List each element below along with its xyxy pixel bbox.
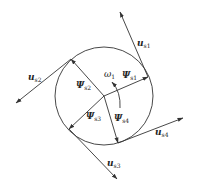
label-u-s1: us1 bbox=[137, 39, 150, 49]
label-psi-s3: Ψs3 bbox=[86, 112, 101, 122]
label-u-s3: us3 bbox=[107, 159, 120, 169]
u-s2-vector bbox=[16, 59, 71, 103]
label-psi-s4: Ψs4 bbox=[114, 114, 129, 124]
label-u-s4: us4 bbox=[155, 128, 168, 138]
omega-rotation-arc-icon bbox=[112, 82, 120, 108]
phasor-diagram bbox=[0, 0, 199, 192]
label-omega: ω1 bbox=[104, 70, 115, 80]
label-u-s2: us2 bbox=[28, 73, 41, 83]
label-psi-s1: Ψs1 bbox=[122, 71, 137, 81]
label-psi-s2: Ψs2 bbox=[76, 81, 91, 91]
u-s3-vector bbox=[69, 129, 117, 179]
